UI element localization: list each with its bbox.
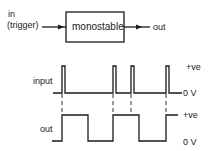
output-high-label: +ve bbox=[183, 110, 198, 120]
input-high-label: +ve bbox=[186, 62, 201, 72]
input-waveform-label: input bbox=[33, 76, 53, 86]
input-arrow-icon bbox=[58, 25, 64, 30]
input-waveform bbox=[53, 66, 182, 93]
output-waveform-label: out bbox=[40, 124, 53, 134]
input-label-trigger: (trigger) bbox=[7, 20, 39, 30]
output-label: out bbox=[153, 22, 166, 32]
input-low-label: 0 V bbox=[183, 88, 197, 98]
output-arrow-icon bbox=[136, 25, 142, 30]
output-waveform bbox=[52, 115, 178, 141]
monostable-label: monostable bbox=[72, 22, 124, 32]
input-label-in: in bbox=[8, 9, 15, 19]
output-low-label: 0 V bbox=[183, 137, 197, 147]
